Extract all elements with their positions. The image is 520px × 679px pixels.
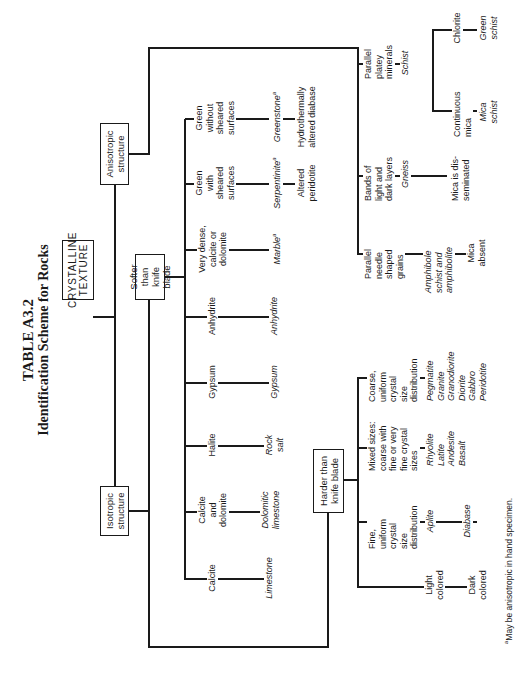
connector	[128, 510, 150, 512]
extra-mica-disseminated: Mica is dis- seminated	[450, 143, 471, 203]
rock-gypsum: Gypsum	[269, 360, 280, 404]
connector	[432, 30, 434, 112]
property-very-dense: Very dense, calcite or dolomite	[197, 219, 229, 279]
extra-altered-peridotite: Altered peridotite	[296, 153, 317, 213]
connector	[114, 185, 116, 487]
connector	[148, 47, 358, 49]
extra-hydrothermally-altered-diabase: Hydrothermally altered diabase	[296, 77, 317, 157]
connector	[185, 578, 269, 580]
connector	[357, 379, 359, 588]
footnote: aMay be anisotropic in hand specimen.	[503, 498, 514, 644]
rock-fine-volcanics: Rhyolite Latite Andesite Basalt	[425, 414, 467, 468]
harder-than-knife-blade-box: Harder than knife blade	[313, 449, 344, 513]
connector	[148, 646, 328, 648]
rock-schist: Schist	[400, 44, 411, 82]
connector	[343, 479, 358, 481]
property-chlorite: Chlorite	[452, 5, 463, 51]
property-green-without: Green without sheared surfaces	[194, 94, 236, 142]
crystalline-texture-box: CRYSTALLINE TEXTURE	[62, 240, 94, 300]
rock-serpentinite: Serpentinitea	[269, 153, 283, 213]
extra-mica-absent: Mica absent	[466, 231, 487, 275]
softer-than-knife-blade-box: Softer than knife blade	[135, 254, 165, 300]
extra-dark-colored: Dark colored	[467, 563, 488, 607]
rock-rock-salt: Rock salt	[264, 428, 285, 462]
property-calcite-dolomite: Calcite and dolomite	[197, 485, 229, 535]
property-bands: Bands of light and dark layers	[363, 143, 395, 203]
rock-anhydrite: Anhydrite	[269, 289, 280, 343]
rock-mica-schist: Mica schist	[478, 93, 499, 131]
connector	[164, 276, 186, 278]
rock-identification-diagram: TABLE A3.2 Identification Scheme for Roc…	[0, 0, 520, 679]
connector	[185, 382, 269, 384]
extra-diabase: Diabase	[462, 497, 473, 545]
rock-dolomitic-limestone: Dolomitic limestone	[260, 479, 281, 541]
rock-aplite: Aplite	[425, 499, 436, 543]
table-number: TABLE A3.2	[20, 290, 37, 390]
rock-marble: Marblea	[269, 227, 283, 271]
property-halite: Halite	[207, 426, 218, 464]
rock-green-schist: Green schist	[478, 7, 499, 49]
rock-gneiss: Gneiss	[400, 155, 411, 193]
connector	[327, 512, 329, 648]
connector	[93, 316, 115, 318]
property-parallel-platey: Parallel platey minerals	[363, 33, 395, 81]
anisotropic-structure-box: Anisotropic structure	[100, 123, 129, 185]
property-continuous-mica: Continuous mica	[452, 79, 473, 139]
rock-greenstone: Greenstonea	[269, 87, 283, 147]
isotropic-structure-box: Isotropic structure	[100, 486, 129, 536]
property-light-colored: Light colored	[424, 563, 445, 607]
rock-coarse-plutonics: Pegmatite Granite Granodiorite Diorite G…	[425, 333, 488, 403]
property-fine-uniform: Fine, uniform crystal size distribution	[367, 487, 420, 551]
connector	[357, 47, 359, 255]
connector	[357, 586, 477, 588]
property-calcite: Calcite	[207, 559, 218, 597]
connector	[128, 153, 150, 155]
connector	[148, 275, 150, 647]
connector	[185, 316, 269, 318]
property-anhydrite: Anhydrite	[207, 289, 218, 343]
property-gypsum: Gypsum	[207, 360, 218, 404]
connector	[185, 445, 269, 447]
property-parallel-needle: Parallel needle shaped grains	[363, 233, 405, 281]
table-subtitle: Identification Scheme for Rocks	[36, 240, 52, 440]
rock-amphibole-schist: Amphibole schist and amphibolite	[423, 231, 455, 295]
property-green-sheared: Green with sheared surfaces	[194, 159, 236, 207]
connector	[148, 48, 150, 155]
property-mixed-sizes: Mixed sizes: coarse with fine or very fi…	[367, 407, 420, 473]
rock-limestone: Limestone	[264, 549, 275, 607]
property-coarse-uniform: Coarse, uniform crystal size distributio…	[367, 340, 420, 404]
